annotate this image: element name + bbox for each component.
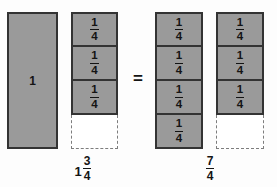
fraction-numerator: 1 bbox=[175, 84, 183, 97]
label-improper-fraction: 7 4 bbox=[170, 155, 250, 185]
quarter-cell: 1 4 bbox=[71, 81, 118, 115]
mixed-number: 1 3 4 bbox=[75, 155, 92, 182]
fraction-denominator: 4 bbox=[175, 63, 183, 77]
fraction-one-quarter: 1 4 bbox=[175, 84, 183, 110]
fraction-denominator: 4 bbox=[90, 29, 98, 43]
empty-quarter-cell bbox=[71, 115, 118, 149]
quarter-cell: 1 4 bbox=[216, 81, 264, 115]
whole-unit-label: 1 bbox=[29, 74, 36, 88]
whole-unit-rectangle: 1 bbox=[7, 12, 58, 149]
fraction-numerator: 1 bbox=[90, 84, 98, 97]
fraction-denominator: 4 bbox=[175, 29, 183, 43]
fraction-numerator: 1 bbox=[236, 50, 244, 63]
equals-sign: = bbox=[130, 70, 146, 86]
quarter-cell: 1 4 bbox=[71, 47, 118, 81]
fraction-denominator: 4 bbox=[236, 29, 244, 43]
fraction-numerator: 3 bbox=[83, 155, 92, 168]
fraction-numerator: 1 bbox=[236, 17, 244, 30]
fraction-one-quarter: 1 4 bbox=[236, 50, 244, 76]
column-right-quarters-a: 1 4 1 4 1 4 1 4 bbox=[155, 12, 203, 149]
label-mixed-number: 1 3 4 bbox=[43, 155, 123, 185]
fraction-denominator: 4 bbox=[90, 63, 98, 77]
fraction-numerator: 1 bbox=[175, 118, 183, 131]
fraction-denominator: 4 bbox=[236, 97, 244, 111]
fraction-one-quarter: 1 4 bbox=[236, 84, 244, 110]
fraction-one-quarter: 1 4 bbox=[175, 118, 183, 144]
fraction-numerator: 1 bbox=[236, 84, 244, 97]
fraction-diagram: 1 1 4 1 4 1 4 = 1 bbox=[0, 0, 277, 187]
fraction-numerator: 7 bbox=[206, 155, 215, 168]
fraction-numerator: 1 bbox=[175, 17, 183, 30]
column-whole-unit: 1 bbox=[7, 12, 58, 149]
mixed-number-fraction: 3 4 bbox=[83, 155, 92, 182]
quarter-cell: 1 4 bbox=[155, 47, 203, 81]
fraction-denominator: 4 bbox=[236, 63, 244, 77]
fraction-denominator: 4 bbox=[206, 168, 215, 182]
fraction-one-quarter: 1 4 bbox=[236, 17, 244, 43]
fraction-one-quarter: 1 4 bbox=[175, 50, 183, 76]
column-left-quarters: 1 4 1 4 1 4 bbox=[71, 12, 118, 149]
quarter-cell: 1 4 bbox=[155, 12, 203, 47]
improper-fraction: 7 4 bbox=[206, 155, 215, 182]
fraction-one-quarter: 1 4 bbox=[90, 84, 98, 110]
fraction-numerator: 1 bbox=[90, 17, 98, 30]
fraction-denominator: 4 bbox=[90, 97, 98, 111]
fraction-one-quarter: 1 4 bbox=[90, 50, 98, 76]
quarter-cell: 1 4 bbox=[155, 81, 203, 115]
fraction-denominator: 4 bbox=[175, 97, 183, 111]
fraction-numerator: 1 bbox=[175, 50, 183, 63]
quarter-cell: 1 4 bbox=[155, 115, 203, 149]
quarter-cell: 1 4 bbox=[71, 12, 118, 47]
column-right-quarters-b: 1 4 1 4 1 4 bbox=[216, 12, 264, 149]
mixed-number-whole-part: 1 bbox=[75, 165, 83, 178]
fraction-one-quarter: 1 4 bbox=[175, 17, 183, 43]
fraction-denominator: 4 bbox=[175, 131, 183, 145]
fraction-denominator: 4 bbox=[83, 168, 92, 182]
empty-quarter-cell bbox=[216, 115, 264, 149]
quarter-cell: 1 4 bbox=[216, 47, 264, 81]
fraction-numerator: 1 bbox=[90, 50, 98, 63]
fraction-one-quarter: 1 4 bbox=[90, 17, 98, 43]
quarter-cell: 1 4 bbox=[216, 12, 264, 47]
